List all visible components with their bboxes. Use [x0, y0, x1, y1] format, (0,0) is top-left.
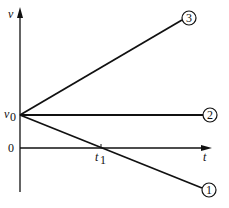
svg-text:3: 3	[186, 11, 192, 25]
svg-text:1: 1	[206, 183, 212, 197]
t1-label: t 1	[95, 150, 106, 167]
svg-text:0: 0	[10, 110, 16, 124]
v-axis-arrow-icon	[17, 7, 23, 18]
v0-label: v 0	[4, 107, 16, 124]
t-axis-label: t	[203, 150, 207, 164]
svg-text:1: 1	[100, 153, 106, 167]
line-1-label: 1	[202, 183, 216, 197]
zero-label: 0	[8, 141, 14, 155]
v-axis-label: v	[8, 7, 14, 21]
velocity-time-diagram: 3 2 1 v t 0 v 0 t 1	[0, 0, 229, 208]
line-3	[20, 20, 182, 115]
line-2-label: 2	[203, 108, 217, 122]
line-3-label: 3	[182, 11, 196, 25]
svg-text:t: t	[95, 150, 99, 164]
line-1	[20, 115, 202, 188]
svg-text:2: 2	[207, 108, 213, 122]
